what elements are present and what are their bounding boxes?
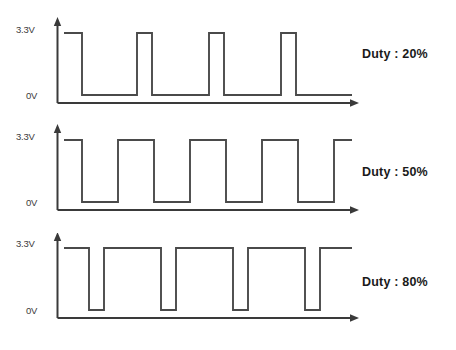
y-axis-20: [54, 17, 61, 103]
x-axis-80: [58, 314, 360, 321]
duty-label-20: Duty : 20%: [362, 47, 428, 61]
waveform-panel-duty-20: 3.3V 0V Duty : 20%: [0, 0, 456, 115]
duty-label-80: Duty : 80%: [362, 275, 428, 289]
signal-trace-duty-50: [64, 140, 352, 202]
waveform-plot-duty-80: [0, 233, 370, 348]
duty-label-50: Duty : 50%: [362, 165, 428, 179]
waveform-plot-duty-50: [0, 118, 370, 233]
signal-trace-duty-80: [64, 248, 352, 310]
x-axis-50: [58, 206, 360, 213]
y-axis-80: [54, 233, 61, 318]
signal-trace-duty-20: [64, 33, 352, 95]
pwm-duty-cycle-figure: 3.3V 0V Duty : 20% 3.3V 0V: [0, 0, 456, 350]
x-axis-20: [58, 99, 360, 106]
waveform-panel-duty-50: 3.3V 0V Duty : 50%: [0, 118, 456, 233]
waveform-plot-duty-20: [0, 0, 370, 115]
waveform-panel-duty-80: 3.3V 0V Duty : 80%: [0, 233, 456, 348]
y-axis-50: [54, 124, 61, 210]
